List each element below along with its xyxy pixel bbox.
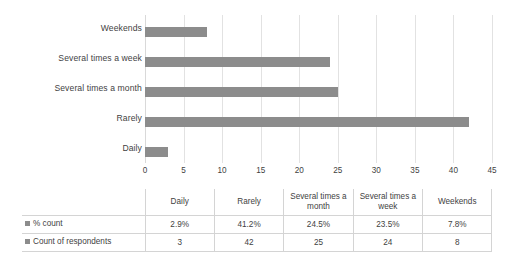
x-tick-15: 15: [246, 166, 276, 175]
cell-count-several-times-a-month: 25: [284, 234, 353, 252]
category-label-weekends: Weekends: [0, 23, 142, 33]
cell-percent-weekends: 7.8%: [423, 216, 492, 234]
table-header-weekends: Weekends: [423, 189, 492, 216]
bar-daily[interactable]: [145, 147, 168, 157]
bar-several-times-a-week[interactable]: [145, 57, 330, 67]
bar-chart-with-data-table: Weekends Several times a week Several ti…: [0, 0, 516, 275]
legend-label-count-of-respondents: Count of respondents: [33, 237, 111, 246]
cell-percent-rarely: 41.2%: [214, 216, 283, 234]
bar-several-times-a-month[interactable]: [145, 87, 338, 97]
x-tick-20: 20: [284, 166, 314, 175]
x-tick-45: 45: [477, 166, 507, 175]
table-header-row: Daily Rarely Several times a month Sever…: [22, 189, 492, 216]
legend-swatch-icon: [25, 221, 30, 226]
category-label-rarely: Rarely: [0, 113, 142, 123]
x-tick-25: 25: [323, 166, 353, 175]
table-header-rarely: Rarely: [214, 189, 283, 216]
cell-percent-several-times-a-week: 23.5%: [353, 216, 422, 234]
bars: [145, 15, 492, 163]
legend-label-percent-count: % count: [33, 219, 63, 228]
data-table: Daily Rarely Several times a month Sever…: [22, 189, 492, 252]
x-axis-ticks: 0 5 10 15 20 25 30 35 40 45: [0, 164, 516, 180]
table-header-daily: Daily: [145, 189, 214, 216]
cell-percent-several-times-a-month: 24.5%: [284, 216, 353, 234]
cell-percent-daily: 2.9%: [145, 216, 214, 234]
cell-count-several-times-a-week: 24: [353, 234, 422, 252]
legend-row-count-of-respondents: Count of respondents: [22, 234, 145, 252]
cell-count-weekends: 8: [423, 234, 492, 252]
legend-row-percent-count: % count: [22, 216, 145, 234]
category-label-several-times-a-month: Several times a month: [0, 83, 142, 93]
cell-count-rarely: 42: [214, 234, 283, 252]
legend-swatch-icon: [25, 239, 30, 244]
x-tick-10: 10: [207, 166, 237, 175]
table-header-several-times-a-week: Several times a week: [353, 189, 422, 216]
category-label-several-times-a-week: Several times a week: [0, 53, 142, 63]
gridline-45: [492, 15, 493, 163]
x-tick-5: 5: [169, 166, 199, 175]
table-header-several-times-a-month: Several times a month: [284, 189, 353, 216]
bar-weekends[interactable]: [145, 27, 207, 37]
cell-count-daily: 3: [145, 234, 214, 252]
bar-rarely[interactable]: [145, 117, 469, 127]
table-row: Count of respondents 3 42 25 24 8: [22, 234, 492, 252]
x-tick-0: 0: [130, 166, 160, 175]
table-row: % count 2.9% 41.2% 24.5% 23.5% 7.8%: [22, 216, 492, 234]
table-corner-cell: [22, 189, 145, 216]
plot-area: Weekends Several times a week Several ti…: [0, 0, 516, 166]
x-tick-35: 35: [400, 166, 430, 175]
x-tick-40: 40: [438, 166, 468, 175]
category-label-daily: Daily: [0, 143, 142, 153]
x-tick-30: 30: [361, 166, 391, 175]
